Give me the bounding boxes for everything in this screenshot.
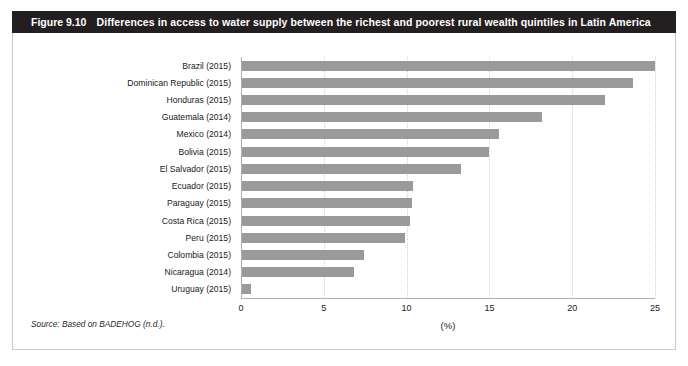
bar bbox=[241, 147, 489, 157]
category-label: Honduras (2015) bbox=[167, 95, 232, 105]
bar-row bbox=[241, 129, 655, 139]
figure-container: Figure 9.10 Differences in access to wat… bbox=[0, 0, 688, 366]
y-axis-line bbox=[241, 57, 242, 298]
bar-row bbox=[241, 216, 655, 226]
gridline-5 bbox=[324, 57, 325, 298]
gridline-20 bbox=[572, 57, 573, 298]
bar-row bbox=[241, 233, 655, 243]
x-tick-label: 10 bbox=[402, 303, 412, 313]
category-label: El Salvador (2015) bbox=[160, 164, 231, 174]
bar bbox=[241, 112, 542, 122]
bar-row bbox=[241, 61, 655, 71]
bar bbox=[241, 284, 251, 294]
x-tick-label: 0 bbox=[238, 303, 243, 313]
bar-row bbox=[241, 284, 655, 294]
category-label: Paraguay (2015) bbox=[167, 198, 231, 208]
figure-number: Figure 9.10 bbox=[12, 16, 86, 28]
x-axis-title: (%) bbox=[441, 320, 456, 331]
bar-row bbox=[241, 250, 655, 260]
bar bbox=[241, 267, 354, 277]
category-label: Colombia (2015) bbox=[167, 250, 231, 260]
plot-area bbox=[241, 57, 655, 298]
category-label: Peru (2015) bbox=[186, 233, 231, 243]
bar bbox=[241, 250, 364, 260]
x-tick-label: 25 bbox=[650, 303, 660, 313]
bar-row bbox=[241, 267, 655, 277]
source-note: Source: Based on BADEHOG (n.d.). bbox=[31, 319, 165, 329]
x-tick-label: 15 bbox=[484, 303, 494, 313]
bar bbox=[241, 95, 605, 105]
category-label: Guatemala (2014) bbox=[162, 112, 231, 122]
bar bbox=[241, 216, 410, 226]
category-label: Nicaragua (2014) bbox=[165, 267, 231, 277]
bar bbox=[241, 198, 412, 208]
gridline-15 bbox=[489, 57, 490, 298]
category-label: Brazil (2015) bbox=[182, 61, 231, 71]
category-label: Costa Rica (2015) bbox=[162, 216, 231, 226]
figure-title-bar: Figure 9.10 Differences in access to wat… bbox=[12, 11, 676, 33]
bar bbox=[241, 164, 461, 174]
figure-title: Differences in access to water supply be… bbox=[86, 16, 650, 28]
category-label: Mexico (2014) bbox=[177, 129, 231, 139]
category-label: Bolivia (2015) bbox=[178, 147, 231, 157]
bar-row bbox=[241, 181, 655, 191]
bar-row bbox=[241, 112, 655, 122]
bar-row bbox=[241, 95, 655, 105]
gridline-25 bbox=[655, 57, 656, 298]
category-label: Ecuador (2015) bbox=[172, 181, 231, 191]
bar bbox=[241, 129, 499, 139]
category-label: Dominican Republic (2015) bbox=[127, 78, 231, 88]
bar bbox=[241, 78, 633, 88]
category-label: Uruguay (2015) bbox=[171, 284, 231, 294]
bar-row bbox=[241, 78, 655, 88]
bar-row bbox=[241, 147, 655, 157]
x-tick-label: 20 bbox=[567, 303, 577, 313]
gridline-10 bbox=[407, 57, 408, 298]
bar bbox=[241, 233, 405, 243]
bar-row bbox=[241, 198, 655, 208]
category-labels: Brazil (2015)Dominican Republic (2015)Ho… bbox=[0, 57, 236, 298]
x-axis-line bbox=[241, 298, 655, 299]
bar bbox=[241, 61, 655, 71]
bar-row bbox=[241, 164, 655, 174]
bar bbox=[241, 181, 413, 191]
x-tick-label: 5 bbox=[321, 303, 326, 313]
